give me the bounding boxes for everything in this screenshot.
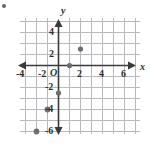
data-point	[67, 63, 72, 68]
origin-label: O	[50, 68, 57, 78]
x-tick-label--2: -2	[38, 69, 46, 79]
x-axis-label: x	[140, 62, 145, 72]
data-point	[78, 46, 83, 51]
x-tick-label-2: 2	[77, 69, 82, 79]
x-tick-label--4: -4	[16, 69, 24, 79]
coordinate-plane-figure: -4 -2 2 4 6 4 2 -2 -4 -6 O x y	[0, 0, 151, 148]
y-tick-label-2: 2	[49, 49, 54, 59]
data-point	[34, 129, 40, 135]
data-point	[56, 90, 61, 95]
x-tick-label-6: 6	[121, 69, 126, 79]
y-tick-label--6: -6	[45, 126, 53, 136]
y-tick-label-4: 4	[49, 27, 54, 37]
y-axis-label: y	[61, 6, 65, 16]
y-tick-label--2: -2	[45, 82, 53, 92]
y-tick-label--4: -4	[45, 104, 53, 114]
x-tick-label-4: 4	[99, 69, 104, 79]
